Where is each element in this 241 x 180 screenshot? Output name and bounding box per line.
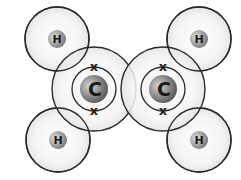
electron-cross-left-top: x [90,59,99,74]
electron-cross-right-top: x [159,59,168,74]
label-h-top-left: H [52,33,61,46]
label-h-bottom-left: H [53,134,62,147]
label-h-bottom-right: H [194,134,203,147]
electron-cross-left-bottom: x [90,103,99,118]
ethene-bonding-diagram: H H H H C C x x x x [0,0,241,180]
label-c-left: C [88,78,102,100]
electron-cross-right-bottom: x [159,103,168,118]
label-c-right: C [157,78,171,100]
label-h-top-right: H [194,33,203,46]
